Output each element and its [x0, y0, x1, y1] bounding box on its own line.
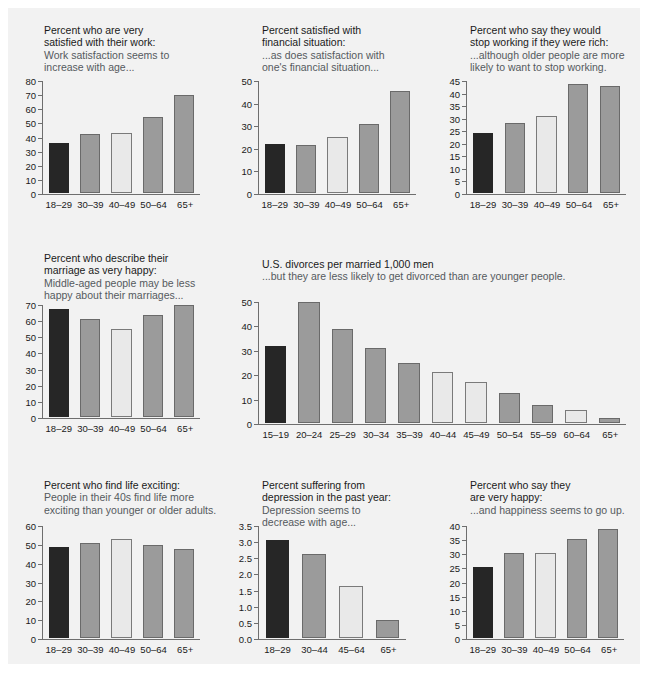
- y-tick-mark: [462, 181, 466, 182]
- bar-slot: [467, 81, 499, 193]
- bar: [49, 143, 69, 193]
- y-tick-mark: [254, 542, 258, 543]
- x-tick-label: 65+: [595, 199, 627, 210]
- x-tick-label: 18–29: [43, 423, 75, 434]
- bar: [111, 539, 131, 638]
- bar-slot: [43, 526, 74, 638]
- bar-series: [43, 81, 200, 193]
- bar-slot: [594, 81, 626, 193]
- x-tick-label: 30–39: [75, 199, 107, 210]
- x-axis-labels: 18–2930–4445–6465+: [259, 644, 407, 655]
- y-tick-mark: [462, 94, 466, 95]
- y-tick-mark: [462, 568, 466, 569]
- x-tick-label: 18–29: [259, 199, 291, 210]
- x-axis-labels: 15–1920–2425–2930–3435–3940–4445–4950–54…: [259, 429, 627, 440]
- bar: [296, 145, 316, 193]
- x-axis-labels: 18–2930–3940–4950–6465+: [467, 199, 627, 210]
- bar-series: [467, 526, 624, 638]
- x-tick-label: 60–64: [560, 429, 593, 440]
- x-axis-line: [258, 639, 406, 640]
- bar-slot: [106, 81, 137, 193]
- bar: [600, 86, 620, 193]
- y-tick-mark: [38, 620, 42, 621]
- bar-slot: [593, 526, 624, 638]
- y-tick-label: 70: [6, 91, 36, 100]
- chart-subtitle: ...although older people are more likely…: [470, 49, 647, 74]
- y-tick-label: 10: [222, 167, 252, 176]
- y-tick-label: 2.0: [222, 570, 252, 579]
- bar: [532, 405, 553, 423]
- bar: [80, 134, 100, 193]
- bar-slot: [169, 305, 200, 417]
- x-axis-labels: 18–2930–3940–4950–6465+: [43, 199, 201, 210]
- chart-subtitle: Work satisfaction seems to increase with…: [44, 49, 234, 74]
- x-axis-labels: 18–2930–3940–4950–6465+: [43, 644, 201, 655]
- y-tick-mark: [254, 104, 258, 105]
- y-tick-mark: [254, 607, 258, 608]
- bar-slot: [43, 305, 74, 417]
- y-tick-mark: [462, 554, 466, 555]
- bar-slot: [326, 302, 359, 423]
- y-tick-label: 30: [6, 366, 36, 375]
- y-tick-mark: [254, 149, 258, 150]
- bar-slot: [426, 302, 459, 423]
- bar-slot: [593, 302, 626, 423]
- y-tick-label: 50: [222, 298, 252, 307]
- x-tick-label: 50–54: [493, 429, 526, 440]
- x-tick-label: 30–39: [75, 644, 107, 655]
- x-tick-label: 50–64: [138, 644, 170, 655]
- bar: [565, 410, 586, 423]
- y-tick-label: 50: [222, 77, 252, 86]
- y-tick-mark: [462, 81, 466, 82]
- bar: [143, 315, 163, 417]
- y-tick-mark: [38, 545, 42, 546]
- bar-series: [259, 526, 406, 638]
- y-tick-label: 50: [6, 333, 36, 342]
- bar: [568, 84, 588, 194]
- x-tick-label: 18–29: [467, 199, 499, 210]
- y-tick-mark: [462, 144, 466, 145]
- bar-slot: [499, 81, 531, 193]
- y-tick-label: 20: [222, 371, 252, 380]
- bar-slot: [498, 526, 529, 638]
- x-axis-labels: 18–2930–3940–4950–6465+: [259, 199, 417, 210]
- bar-slot: [43, 81, 74, 193]
- y-tick-mark: [254, 326, 258, 327]
- y-tick-label: 40: [6, 349, 36, 358]
- y-tick-label: 0: [430, 635, 460, 644]
- y-tick-mark: [462, 583, 466, 584]
- y-tick-mark: [254, 591, 258, 592]
- y-tick-label: 15: [430, 152, 460, 161]
- bar: [265, 346, 286, 423]
- plot-area: 01020304050: [258, 302, 626, 424]
- y-tick-mark: [254, 375, 258, 376]
- plot-area: 0.00.51.01.52.02.53.03.5: [258, 526, 406, 639]
- y-tick-label: 0.5: [222, 619, 252, 628]
- y-tick-label: 30: [430, 115, 460, 124]
- bar: [473, 133, 493, 193]
- y-tick-mark: [38, 138, 42, 139]
- y-tick-mark: [254, 400, 258, 401]
- bar-slot: [106, 305, 137, 417]
- y-tick-mark: [38, 370, 42, 371]
- bar: [174, 549, 194, 638]
- bar-slot: [392, 302, 425, 423]
- x-axis-line: [258, 424, 626, 425]
- y-tick-label: 40: [222, 322, 252, 331]
- bar-slot: [292, 302, 325, 423]
- bar: [465, 382, 486, 423]
- y-tick-label: 40: [430, 90, 460, 99]
- x-tick-label: 30–39: [499, 199, 531, 210]
- y-tick-label: 60: [6, 522, 36, 531]
- y-tick-mark: [462, 156, 466, 157]
- y-tick-mark: [38, 166, 42, 167]
- y-tick-label: 1.0: [222, 603, 252, 612]
- bar-slot: [562, 81, 594, 193]
- x-tick-label: 50–64: [563, 199, 595, 210]
- y-tick-mark: [254, 302, 258, 303]
- x-tick-label: 40–49: [106, 644, 138, 655]
- bar: [298, 302, 319, 423]
- bar: [80, 543, 100, 638]
- chart-subtitle: ...as does satisfaction with one's finan…: [262, 49, 452, 74]
- plot-area: 010203040506070: [42, 305, 200, 418]
